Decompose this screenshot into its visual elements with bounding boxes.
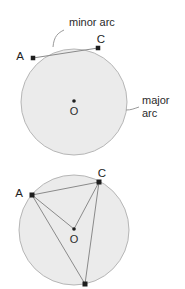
bottom-point-b bbox=[83, 282, 88, 287]
minor-arc-label: minor arc bbox=[69, 16, 115, 28]
top-point-a bbox=[31, 56, 36, 61]
top-center-o-dot bbox=[72, 99, 76, 103]
bottom-point-c-label: C bbox=[98, 167, 106, 179]
top-point-c bbox=[96, 46, 101, 51]
top-point-a-label: A bbox=[16, 50, 24, 62]
major-arc-label-line1: major bbox=[142, 94, 170, 106]
bottom-point-a bbox=[30, 193, 35, 198]
top-point-c-label: C bbox=[97, 33, 105, 45]
top-circle-group: A C O bbox=[16, 33, 127, 155]
top-center-o-label: O bbox=[70, 105, 79, 117]
major-arc-label-line2: arc bbox=[142, 107, 158, 119]
bottom-circle-group: A C O bbox=[15, 167, 129, 287]
major-arc-leader-line bbox=[126, 107, 139, 110]
minor-arc-leader-line bbox=[53, 30, 64, 47]
geometry-figure-arcs: A C O minor arc major arc A C O bbox=[0, 0, 185, 289]
bottom-point-a-label: A bbox=[15, 187, 23, 199]
bottom-center-o-label: O bbox=[70, 233, 79, 245]
bottom-center-o-dot bbox=[72, 227, 76, 231]
bottom-point-c bbox=[97, 180, 102, 185]
